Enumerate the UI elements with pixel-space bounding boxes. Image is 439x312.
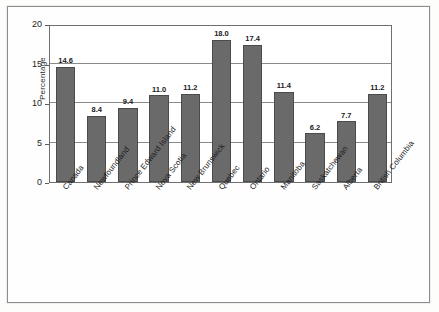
y-tick-label: 0 — [20, 177, 42, 187]
bar-group: 11.4 — [274, 24, 293, 182]
bar-value-label: 18.0 — [214, 29, 229, 38]
chart-figure: Percentage 05101520 14.68.49.411.011.218… — [0, 0, 439, 312]
y-tick-label: 20 — [20, 19, 42, 29]
bar — [56, 67, 75, 182]
y-tick-label: 10 — [20, 98, 42, 108]
bar-group: 17.4 — [243, 24, 262, 182]
bar-value-label: 11.2 — [183, 83, 197, 92]
bar-value-label: 17.4 — [245, 34, 260, 43]
bar-value-label: 11.0 — [152, 85, 166, 94]
bar — [274, 92, 293, 182]
bar-group: 14.6 — [56, 24, 75, 182]
bar — [243, 45, 262, 182]
y-tick-label: 5 — [20, 138, 42, 148]
bar-value-label: 11.4 — [277, 81, 291, 90]
bar-value-label: 8.4 — [92, 105, 102, 114]
bar-value-label: 9.4 — [123, 97, 133, 106]
y-axis-title: Percentage — [38, 34, 47, 124]
bar-group: 6.2 — [305, 24, 324, 182]
bar-value-label: 6.2 — [310, 123, 320, 132]
bar-value-label: 14.6 — [58, 56, 73, 65]
y-tick-label: 15 — [20, 59, 42, 69]
y-tick-mark — [45, 183, 49, 184]
bar-group: 11.2 — [368, 24, 387, 182]
bar-group: 8.4 — [87, 24, 106, 182]
bar-value-label: 7.7 — [341, 111, 351, 120]
bar-value-label: 11.2 — [370, 83, 384, 92]
